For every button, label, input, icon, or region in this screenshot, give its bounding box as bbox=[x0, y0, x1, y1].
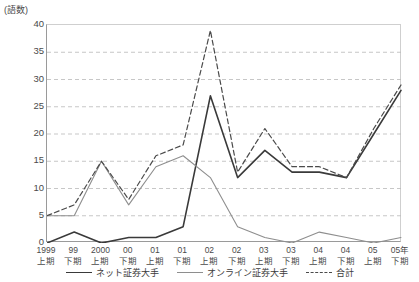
x-axis-tick: 2000上期 bbox=[91, 245, 110, 266]
chart-legend: ネット証券大手 オンライン証券大手 合計 bbox=[0, 266, 419, 279]
x-axis-tick: 04上期 bbox=[309, 245, 327, 266]
legend-key-line-icon bbox=[66, 269, 92, 277]
y-axis-tick: 25 bbox=[16, 101, 44, 110]
y-axis-tick: 35 bbox=[16, 46, 44, 55]
x-axis-tick: 02下期 bbox=[228, 245, 246, 266]
x-axis-tick: 99下期 bbox=[64, 245, 82, 266]
legend-label: オンライン証券大手 bbox=[207, 266, 288, 279]
x-axis-tick: 03下期 bbox=[282, 245, 300, 266]
legend-label: ネット証券大手 bbox=[96, 266, 159, 279]
legend-item-total: 合計 bbox=[306, 266, 354, 279]
y-axis-tick: 10 bbox=[16, 183, 44, 192]
x-axis-tick: 01下期 bbox=[173, 245, 191, 266]
legend-label: 合計 bbox=[336, 266, 354, 279]
y-axis-tick: 40 bbox=[16, 19, 44, 28]
y-axis-tick: 5 bbox=[16, 210, 44, 219]
x-axis-tick: 03上期 bbox=[255, 245, 273, 266]
legend-key-line-icon bbox=[177, 269, 203, 277]
chart-container: (語数) 4035302520151050 1999上期99下期2000上期00… bbox=[0, 0, 419, 282]
y-axis-tick: 20 bbox=[16, 128, 44, 137]
series-lines bbox=[47, 25, 402, 243]
x-axis-tick: 1999上期 bbox=[37, 245, 56, 266]
x-axis-tick: 04下期 bbox=[337, 245, 355, 266]
plot-area bbox=[46, 24, 401, 242]
y-axis-tick-labels: 4035302520151050 bbox=[10, 0, 44, 282]
legend-item-online-shoken: オンライン証券大手 bbox=[177, 266, 288, 279]
legend-key-dashed-line-icon bbox=[306, 269, 332, 277]
x-axis-tick: 05年下期 bbox=[391, 245, 409, 266]
y-axis-tick: 15 bbox=[16, 155, 44, 164]
x-axis-tick: 05上期 bbox=[364, 245, 382, 266]
x-axis-tick: 00下期 bbox=[119, 245, 137, 266]
x-axis-unit-suffix: 年 bbox=[400, 245, 409, 255]
x-axis-tick: 02上期 bbox=[200, 245, 218, 266]
legend-item-net-shoken: ネット証券大手 bbox=[66, 266, 159, 279]
x-axis-tick: 01上期 bbox=[146, 245, 164, 266]
y-axis-tick: 30 bbox=[16, 74, 44, 83]
